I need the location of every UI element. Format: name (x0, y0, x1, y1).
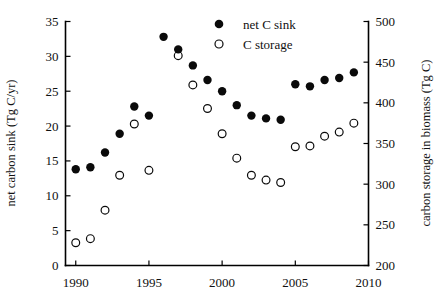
data-point-net-c-sink (86, 163, 94, 171)
y2-tick-label: 200 (376, 258, 396, 273)
y2-tick-label: 250 (376, 217, 396, 232)
tick-marks (66, 22, 369, 266)
legend: net C sink C storage (215, 17, 297, 52)
y2-tick-label: 350 (376, 136, 396, 151)
y2-tick-label: 500 (376, 14, 396, 29)
data-point-c-storage (262, 176, 270, 184)
scatter-plot: 0510152025303520025030035040045050019901… (0, 0, 442, 306)
data-point-c-storage (86, 235, 94, 243)
data-point-net-c-sink (159, 33, 167, 41)
data-point-net-c-sink (145, 111, 153, 119)
data-point-net-c-sink (306, 82, 314, 90)
data-point-c-storage (189, 81, 197, 89)
tick-labels: 0510152025303520025030035040045050019901… (46, 14, 396, 290)
y2-tick-label: 450 (376, 55, 396, 70)
data-point-net-c-sink (115, 130, 123, 138)
chart-figure: 0510152025303520025030035040045050019901… (0, 0, 442, 306)
data-point-net-c-sink (233, 101, 241, 109)
data-point-net-c-sink (262, 114, 270, 122)
data-point-c-storage (277, 179, 285, 187)
x-tick-label: 2010 (356, 275, 382, 290)
data-point-c-storage (218, 130, 226, 138)
data-point-net-c-sink (101, 148, 109, 156)
y2-tick-label: 300 (376, 177, 396, 192)
data-point-net-c-sink (350, 68, 358, 76)
data-point-net-c-sink (291, 80, 299, 88)
legend-marker-c-storage (215, 40, 223, 48)
data-point-c-storage (72, 239, 80, 247)
x-tick-label: 2000 (209, 275, 235, 290)
data-point-net-c-sink (130, 102, 138, 110)
y-axis-label: net carbon sink (Tg C/yr) (4, 79, 18, 206)
data-point-c-storage (233, 154, 241, 162)
data-point-c-storage (291, 143, 299, 151)
axes (66, 22, 369, 266)
data-point-net-c-sink (247, 111, 255, 119)
y-tick-label: 20 (46, 119, 59, 134)
data-point-net-c-sink (72, 165, 80, 173)
y-tick-label: 0 (52, 258, 59, 273)
x-tick-label: 1990 (63, 275, 89, 290)
y2-axis-label: carbon storage in biomass (Tg C) (419, 60, 433, 227)
y-tick-label: 15 (46, 153, 59, 168)
data-point-net-c-sink (335, 74, 343, 82)
data-point-net-c-sink (189, 61, 197, 69)
x-tick-label: 1995 (136, 275, 162, 290)
data-point-c-storage (204, 105, 212, 113)
legend-label-c-storage: C storage (243, 37, 293, 52)
data-point-c-storage (350, 119, 358, 127)
data-point-c-storage (335, 128, 343, 136)
data-point-c-storage (130, 120, 138, 128)
y-tick-label: 10 (46, 188, 59, 203)
data-point-net-c-sink (174, 45, 182, 53)
data-point-c-storage (321, 132, 329, 140)
data-point-net-c-sink (320, 76, 328, 84)
y-tick-label: 30 (46, 49, 59, 64)
legend-marker-net-c-sink (215, 20, 224, 29)
data-point-c-storage (145, 166, 153, 174)
data-point-c-storage (248, 171, 256, 179)
y-tick-label: 5 (52, 223, 59, 238)
data-point-net-c-sink (218, 87, 226, 95)
data-point-net-c-sink (276, 116, 284, 124)
data-point-c-storage (101, 206, 109, 214)
y2-tick-label: 400 (376, 95, 396, 110)
legend-label-net-c-sink: net C sink (243, 17, 296, 32)
data-points (72, 33, 359, 247)
data-point-net-c-sink (203, 76, 211, 84)
data-point-c-storage (116, 171, 124, 179)
y-tick-label: 25 (46, 84, 59, 99)
y-tick-label: 35 (46, 14, 59, 29)
x-tick-label: 2005 (282, 275, 308, 290)
data-point-c-storage (306, 142, 314, 150)
